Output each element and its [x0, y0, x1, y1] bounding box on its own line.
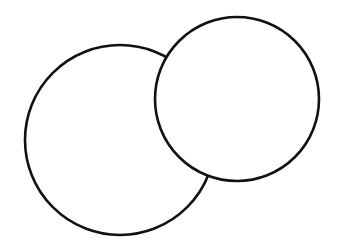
- small-circle: [155, 17, 319, 181]
- diagram-canvas: [0, 0, 337, 250]
